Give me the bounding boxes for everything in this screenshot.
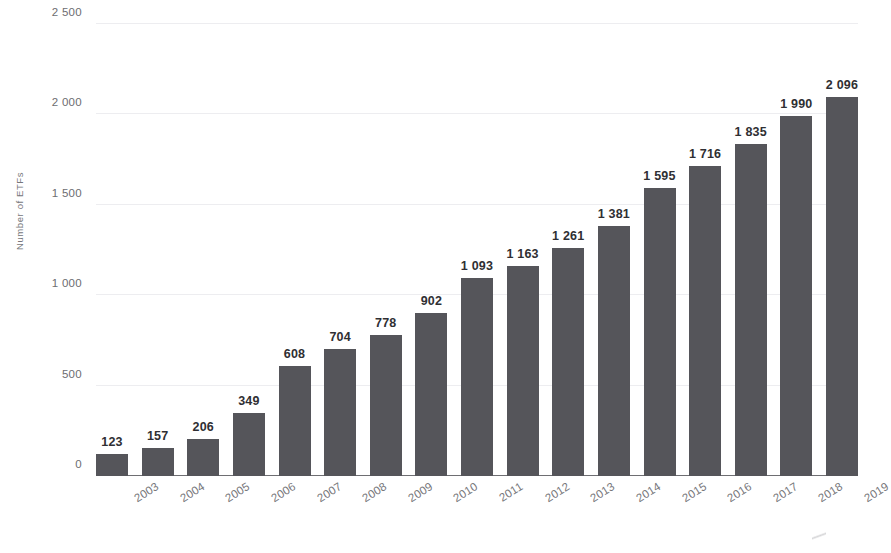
bar-value-label: 704 xyxy=(329,330,350,344)
bar-group[interactable]: 1 381 xyxy=(598,24,630,476)
bar[interactable] xyxy=(324,349,356,476)
bar-value-label: 778 xyxy=(375,316,396,330)
bar[interactable] xyxy=(461,278,493,476)
bar-group[interactable]: 1 261 xyxy=(552,24,584,476)
bar-group[interactable]: 1 990 xyxy=(780,24,812,476)
y-tick-label: 0 xyxy=(75,458,82,470)
x-tick-label: 2018 xyxy=(816,480,845,504)
x-tick-label: 2011 xyxy=(497,480,525,504)
bar[interactable] xyxy=(279,366,311,476)
bar-value-label: 1 835 xyxy=(735,125,767,139)
bar-group[interactable]: 778 xyxy=(370,24,402,476)
y-tick-label: 1 000 xyxy=(52,277,82,289)
bar[interactable] xyxy=(552,248,584,476)
bar-value-label: 2 096 xyxy=(826,78,858,92)
bar[interactable] xyxy=(96,454,128,476)
bar-group[interactable]: 157 xyxy=(142,24,174,476)
bar-group[interactable]: 1 716 xyxy=(689,24,721,476)
bar[interactable] xyxy=(370,335,402,476)
x-tick-label: 2013 xyxy=(588,480,617,504)
bar[interactable] xyxy=(780,116,812,476)
x-tick-label: 2015 xyxy=(680,480,709,504)
bar-group[interactable]: 123 xyxy=(96,24,128,476)
bar-group[interactable]: 349 xyxy=(233,24,265,476)
bar-group[interactable]: 1 835 xyxy=(735,24,767,476)
bar[interactable] xyxy=(507,266,539,476)
bar[interactable] xyxy=(187,439,219,476)
bar[interactable] xyxy=(598,226,630,476)
x-tick-label: 2012 xyxy=(543,480,572,504)
bar-value-label: 902 xyxy=(421,294,442,308)
bar-value-label: 206 xyxy=(193,420,214,434)
x-tick-label: 2016 xyxy=(725,480,754,504)
bar-value-label: 608 xyxy=(284,347,305,361)
bar-value-label: 349 xyxy=(238,394,259,408)
bars-container: 1231572063496087047789021 0931 1631 2611… xyxy=(96,24,858,476)
y-tick-label: 2 500 xyxy=(52,6,82,18)
bar-value-label: 1 381 xyxy=(598,207,630,221)
x-tick-label: 2003 xyxy=(132,480,161,504)
bar-value-label: 1 595 xyxy=(643,169,675,183)
bar-value-label: 1 163 xyxy=(506,247,538,261)
x-tick-label: 2019 xyxy=(862,480,891,504)
bar-group[interactable]: 1 163 xyxy=(507,24,539,476)
bar-value-label: 1 716 xyxy=(689,147,721,161)
bar-value-label: 1 093 xyxy=(461,259,493,273)
y-tick-label: 500 xyxy=(62,368,82,380)
bar[interactable] xyxy=(735,144,767,476)
bar[interactable] xyxy=(644,188,676,476)
bar-group[interactable]: 608 xyxy=(279,24,311,476)
bar-value-label: 1 261 xyxy=(552,229,584,243)
x-tick-label: 2008 xyxy=(360,480,389,504)
bar[interactable] xyxy=(233,413,265,476)
y-axis-title: Number of ETFs xyxy=(14,120,25,250)
bar-group[interactable]: 2 096 xyxy=(826,24,858,476)
y-tick-label: 2 000 xyxy=(52,96,82,108)
x-tick-label: 2010 xyxy=(451,480,480,504)
x-tick-label: 2004 xyxy=(178,480,207,504)
x-tick-label: 2006 xyxy=(269,480,298,504)
bar[interactable] xyxy=(142,448,174,476)
bar[interactable] xyxy=(415,313,447,476)
y-tick-label: 1 500 xyxy=(52,187,82,199)
bar[interactable] xyxy=(826,97,858,476)
bar-group[interactable]: 902 xyxy=(415,24,447,476)
bar-value-label: 1 990 xyxy=(780,97,812,111)
bar-value-label: 157 xyxy=(147,429,168,443)
x-tick-label: 2005 xyxy=(223,480,252,504)
x-tick-label: 2017 xyxy=(771,480,800,504)
bar-group[interactable]: 206 xyxy=(187,24,219,476)
bar-group[interactable]: 1 595 xyxy=(644,24,676,476)
bar[interactable] xyxy=(689,166,721,476)
bar-group[interactable]: 704 xyxy=(324,24,356,476)
x-tick-label: 2009 xyxy=(406,480,435,504)
x-tick-label: 2014 xyxy=(634,480,663,504)
bar-value-label: 123 xyxy=(101,435,122,449)
plot-area: 05001 0001 5002 0002 500 123157206349608… xyxy=(96,24,858,476)
x-tick-label: 2007 xyxy=(315,480,344,504)
scan-artifact xyxy=(812,524,826,548)
x-axis-labels: 2003200420052006200720082009201020112012… xyxy=(96,480,858,540)
bar-group[interactable]: 1 093 xyxy=(461,24,493,476)
